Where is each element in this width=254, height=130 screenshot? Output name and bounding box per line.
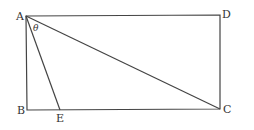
label-a: A: [15, 10, 25, 23]
label-b: B: [17, 104, 25, 117]
angle-theta-label: θ: [33, 23, 39, 33]
rectangle-diagram: A D B C E θ: [0, 0, 254, 130]
label-d: D: [222, 8, 231, 21]
label-c: C: [223, 103, 231, 116]
label-e: E: [56, 112, 64, 125]
